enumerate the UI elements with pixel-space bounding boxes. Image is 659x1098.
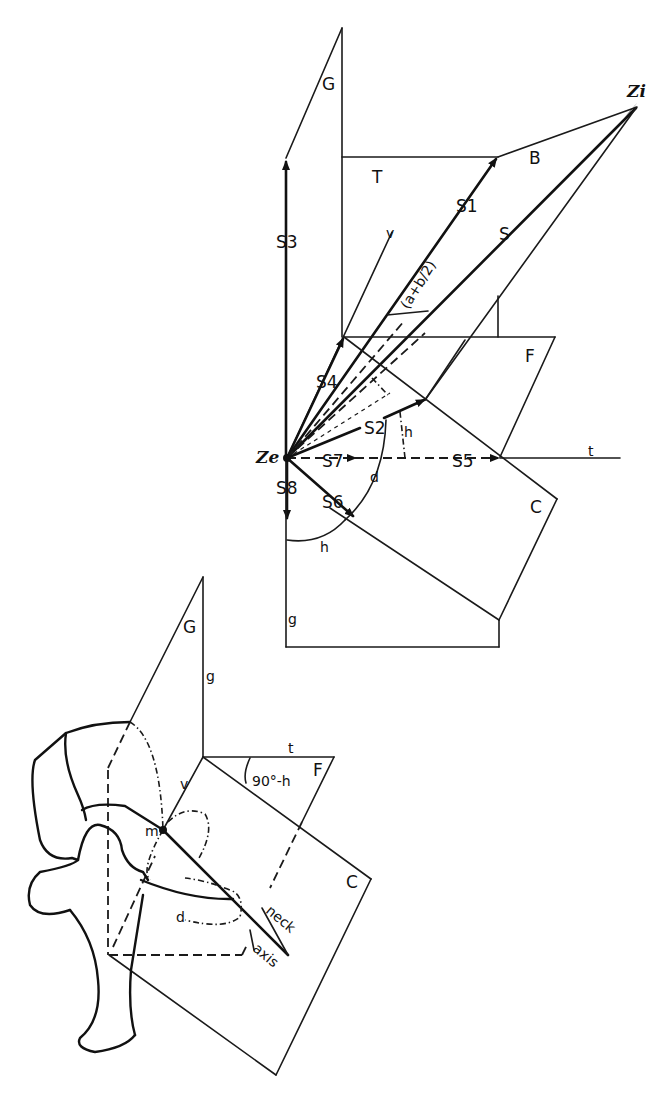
label-s8: S8: [276, 478, 298, 498]
label-c-lower: C: [346, 872, 358, 892]
upper-diagram: G T B Zi S1 S v S3 (a+b/2) F S4 S2 h Ze …: [255, 28, 646, 647]
label-c-plane: C: [530, 497, 542, 517]
m-point: [159, 826, 167, 834]
femur-shaft-right: [130, 895, 143, 1035]
angle-90-h-arc: [245, 758, 250, 783]
label-f-lower: F: [313, 760, 323, 780]
plane-f-upper: [344, 337, 555, 457]
dashed-g-top: [108, 722, 130, 768]
lesser-trochanter-dotted: [168, 811, 209, 860]
label-g-axis-lower: g: [206, 668, 215, 684]
label-90-h: 90°-h: [252, 773, 291, 789]
label-s3: S3: [276, 232, 298, 252]
dashed-f-extension: [270, 822, 302, 888]
label-h-upper: h: [404, 424, 413, 440]
label-v: v: [386, 225, 394, 241]
label-zi: Zi: [626, 81, 646, 101]
label-s5: S5: [452, 451, 474, 471]
f-diagonal: [425, 340, 465, 400]
label-s1: S1: [456, 196, 478, 216]
angle-ab-line: [387, 311, 428, 315]
label-g-plane-lower: G: [183, 617, 196, 637]
label-angle-ab: (a+b/2): [397, 258, 439, 312]
label-v-lower: v: [180, 776, 188, 792]
dashed-diag: [113, 856, 155, 947]
label-b-plane: B: [529, 148, 541, 168]
ze-point: [283, 454, 291, 462]
label-d-upper: d: [370, 469, 379, 485]
label-s6: S6: [322, 492, 344, 512]
label-ze: Ze: [255, 447, 279, 467]
diagram-canvas: G T B Zi S1 S v S3 (a+b/2) F S4 S2 h Ze …: [0, 0, 659, 1098]
lower-diagram: G g t F 90°-h v m C d neck axis: [29, 577, 371, 1075]
head-dotted-contour: [130, 722, 163, 830]
vector-s: [287, 108, 636, 458]
dashed-ray-1: [287, 320, 405, 458]
label-t-plane: T: [371, 167, 383, 187]
angle-h-arc: [287, 520, 345, 541]
label-s7: S7: [322, 451, 344, 471]
label-t-axis: t: [588, 443, 594, 459]
label-s2: S2: [364, 418, 386, 438]
dashed-bottom-rise: [242, 945, 247, 955]
axis-v-lower: [163, 757, 203, 830]
vector-s2-ext: [384, 400, 424, 418]
label-g-plane: G: [322, 74, 335, 94]
femur-greater-trochanter: [29, 733, 78, 914]
femur-neck-lower: [78, 825, 148, 880]
label-h-lower: h: [320, 539, 329, 555]
label-s: S: [499, 224, 510, 244]
label-f-plane: F: [525, 346, 535, 366]
label-s4: S4: [316, 372, 338, 392]
label-g-axis-upper: g: [288, 611, 297, 627]
plane-t: [342, 107, 637, 337]
femur-lesser-contour: [141, 880, 233, 899]
femur-shaft-left: [70, 910, 135, 1052]
label-d-lower: d: [176, 909, 185, 925]
plane-g-lower: [130, 577, 203, 722]
label-t-lower: t: [288, 740, 294, 756]
c-projection: [372, 378, 388, 395]
label-m: m: [145, 823, 159, 839]
